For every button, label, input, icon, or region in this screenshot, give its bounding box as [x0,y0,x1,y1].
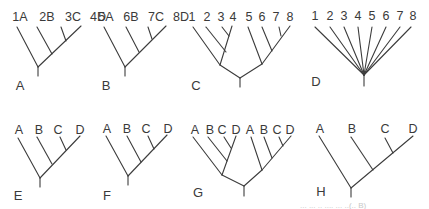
panel-label: B [102,78,111,93]
tip-label: D [163,122,172,136]
tip-label: 1A [12,10,28,24]
tip-label: 5A [98,10,114,24]
branch-line [37,137,52,164]
tip-label: B [123,122,131,136]
branch-line [104,27,125,67]
tip-label: 8D [173,10,189,24]
tip-label: 7 [273,10,280,24]
branch-line [251,137,262,170]
branch-line [222,175,244,186]
tree-b: 5A6B7C8DB [98,10,189,93]
branch-line [279,27,281,36]
branch-line [315,27,364,75]
panel-label: D [311,74,320,89]
branch-line [264,137,272,158]
tip-label: 2 [327,9,334,23]
tip-label: D [408,122,417,136]
tip-label: 2 [204,10,211,24]
branch-line [262,27,272,51]
tip-label: A [15,123,24,137]
tip-label: A [191,123,200,137]
tree-diagram-svg: 1A2B3C4DA5A6B7C8DB12345678C12345678DABCD… [0,0,429,209]
tip-label: C [217,123,226,137]
branch-line [262,26,290,64]
branch-line [128,135,167,176]
trees-group: 1A2B3C4DA5A6B7C8DB12345678C12345678DABCD… [12,9,417,203]
tip-label: 7C [148,10,164,24]
branch-line [106,136,128,176]
tip-label: 5 [369,9,376,23]
branch-line [222,27,229,36]
tip-label: 4 [230,10,237,24]
panel-label: F [103,188,111,203]
tree-c: 12345678C [189,10,294,93]
tree-e: ABCDE [14,123,85,203]
panel-label: G [193,185,203,200]
branch-line [126,27,139,52]
branch-line [125,26,166,67]
tip-label: B [206,123,214,137]
tip-label: 8 [410,9,417,23]
tip-label: A [246,123,255,137]
branch-line [127,136,141,162]
panel-label: C [191,78,200,93]
tree-d: 12345678D [311,9,416,89]
tip-label: 8 [287,10,294,24]
tip-label: C [380,122,389,136]
branch-line [279,137,283,146]
tip-label: D [285,123,294,137]
panel-label: H [316,184,325,199]
tip-label: B [348,122,356,136]
panel-label: E [14,188,23,203]
branch-line [38,26,81,67]
tree-g: ABCDABCDG [191,123,295,200]
tip-label: C [272,123,281,137]
tip-label: B [35,123,43,137]
branch-line [206,27,226,52]
branch-line [351,137,373,170]
tip-label: A [103,122,112,136]
tip-label: 6 [259,10,266,24]
tip-label: 4 [355,9,362,23]
panel-label: A [16,78,25,93]
tip-label: 7 [397,9,404,23]
branch-line [18,138,40,178]
branch-line [37,27,52,54]
branch-line [193,27,220,65]
branch-line [222,136,236,175]
branch-line [319,136,351,188]
tip-label: 6 [383,9,390,23]
branch-line [240,64,262,78]
branch-line [208,137,227,161]
tip-label: B [260,123,268,137]
tip-label: D [75,123,84,137]
branch-line [248,27,262,64]
branch-line [40,136,80,178]
tip-label: C [141,122,150,136]
tree-f: ABCDF [103,122,173,203]
tip-label: 3 [341,9,348,23]
branch-line [148,136,154,149]
tip-label: 1 [189,10,196,24]
phylogeny-figure: 1A2B3C4DA5A6B7C8DB12345678C12345678DABCD… [0,0,429,209]
tip-label: D [231,123,240,137]
tip-label: 3 [218,10,225,24]
branch-line [61,27,66,41]
branch-line [193,137,222,175]
branch-line [385,138,393,153]
tip-label: C [53,123,62,137]
branch-line [364,27,386,75]
tip-label: 6B [123,10,138,24]
branch-line [351,136,413,188]
cut-off-caption: ... ... .. .... ... ..(.. B) [300,201,367,209]
tree-a: 1A2B3C4DA [12,10,106,93]
branch-line [17,27,38,67]
branch-line [244,170,262,186]
branch-line [224,137,231,148]
tip-label: 3C [65,10,81,24]
tip-label: 2B [39,10,54,24]
branch-line [262,136,291,170]
tip-label: 5 [246,10,253,24]
branch-line [220,65,240,78]
branch-line [148,27,152,39]
